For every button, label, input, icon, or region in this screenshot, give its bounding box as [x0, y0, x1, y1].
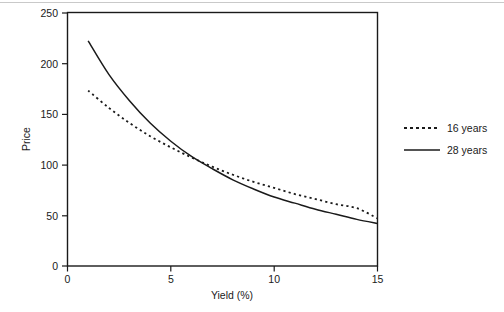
data-series-group	[88, 41, 377, 224]
series-line-16-years	[88, 91, 377, 219]
legend-label-28-years: 28 years	[447, 144, 487, 156]
series-line-28-years	[88, 41, 377, 224]
x-tick-labels: 0 5 10 15	[65, 273, 384, 285]
y-tick-label: 150	[40, 108, 58, 120]
y-axis-title: Price	[20, 127, 32, 151]
y-tick-labels: 250 200 150 100 50 0	[40, 7, 58, 272]
price-yield-chart-figure: 250 200 150 100 50 0 0 5 10 15 Yield (%)…	[0, 0, 504, 312]
y-tick-label: 250	[40, 7, 58, 19]
chart-canvas: 250 200 150 100 50 0 0 5 10 15 Yield (%)…	[0, 0, 504, 312]
x-tick-label: 15	[372, 273, 384, 285]
y-tick-label: 50	[46, 210, 58, 222]
top-divider-rule	[0, 2, 504, 3]
plot-frame	[68, 13, 378, 267]
legend-label-16-years: 16 years	[447, 122, 487, 134]
x-axis-title: Yield (%)	[211, 289, 253, 301]
x-tick-label: 5	[168, 273, 174, 285]
x-axis-ticks	[68, 266, 378, 272]
y-tick-label: 0	[52, 260, 58, 272]
legend: 16 years 28 years	[404, 122, 487, 156]
y-tick-label: 200	[40, 58, 58, 70]
y-tick-label: 100	[40, 159, 58, 171]
x-tick-label: 10	[268, 273, 280, 285]
y-axis-ticks	[62, 13, 68, 266]
x-tick-label: 0	[65, 273, 71, 285]
